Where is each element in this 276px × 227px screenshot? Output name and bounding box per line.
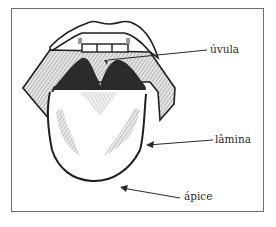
tongue: [48, 92, 146, 181]
label-lamina: lâmina: [215, 134, 251, 145]
label-uvula: úvula: [210, 44, 239, 55]
upper-teeth: [78, 38, 130, 52]
label-apice: ápice: [184, 191, 212, 202]
mouth-tongue-illustration: [0, 0, 276, 227]
